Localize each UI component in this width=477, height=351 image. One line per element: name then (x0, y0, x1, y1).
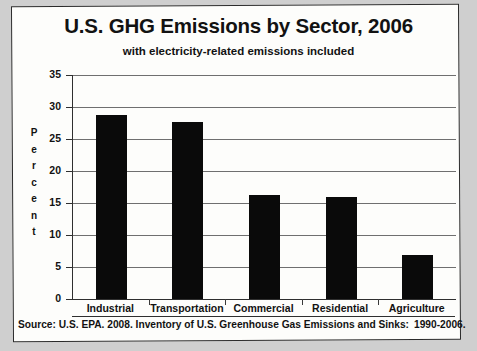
y-axis-tick-label: 30 (31, 100, 61, 112)
y-axis-tick (66, 139, 73, 140)
y-axis-tick-label: 35 (31, 68, 61, 80)
y-axis-tick-label: 5 (31, 260, 61, 272)
gridline (73, 171, 456, 172)
y-axis-tick-label: 20 (31, 164, 61, 176)
chart-figure: U.S. GHG Emissions by Sector, 2006 with … (0, 0, 477, 351)
y-axis-tick (66, 267, 73, 268)
bar-residential (326, 197, 357, 299)
y-axis-tick (66, 235, 73, 236)
bar-industrial (96, 115, 127, 299)
bar-commercial (249, 195, 280, 299)
source-years: 1990-2006. (414, 319, 466, 330)
gridline (73, 107, 456, 108)
y-axis-tick-label: 10 (31, 228, 61, 240)
chart-subtitle: with electricity-related emissions inclu… (0, 45, 477, 57)
x-axis-label-agriculture: Agriculture (371, 302, 463, 314)
y-axis-tick (66, 107, 73, 108)
x-axis-tick (302, 299, 303, 305)
chart-title: U.S. GHG Emissions by Sector, 2006 (0, 14, 477, 38)
y-axis-tick-label: 15 (31, 196, 61, 208)
y-axis-tick-label: 25 (31, 132, 61, 144)
y-axis-title-letter: n (27, 208, 41, 225)
y-axis-tick (66, 171, 73, 172)
x-axis-tick (149, 299, 150, 305)
y-axis-tick (66, 75, 73, 76)
y-axis-title-letter: c (27, 175, 41, 192)
gridline (73, 139, 456, 140)
x-axis-bottom-rule (72, 316, 455, 317)
x-axis-tick (225, 299, 226, 305)
x-axis-tick (378, 299, 379, 305)
y-axis-tick (66, 203, 73, 204)
source-note: Source: U.S. EPA. 2008. Inventory of U.S… (18, 319, 466, 330)
x-axis-line (73, 299, 456, 300)
bar-agriculture (402, 255, 433, 299)
y-axis-tick (66, 299, 73, 300)
scanned-page: U.S. GHG Emissions by Sector, 2006 with … (0, 0, 477, 351)
plot-area: 05101520253035 (72, 75, 455, 299)
bar-transportation (172, 122, 203, 299)
gridline (73, 75, 456, 76)
source-text: Source: U.S. EPA. 2008. Inventory of U.S… (18, 319, 409, 330)
y-axis-tick-label: 0 (31, 292, 61, 304)
